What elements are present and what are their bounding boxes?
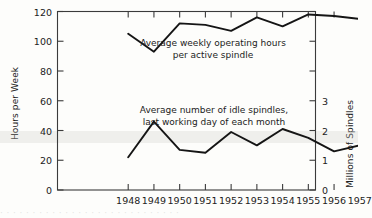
- x-tick-label: 1955: [296, 195, 320, 206]
- y2-tick-label: 3: [322, 95, 328, 106]
- annotation-lower-line2: last working day of each month: [143, 117, 285, 127]
- x-tick-label: 1953: [245, 195, 269, 206]
- x-tick-label: 1948: [116, 195, 140, 206]
- page-bleed-text: · · · · · · · · · · · · · · · · · · · · …: [0, 208, 358, 217]
- y-tick-label: 60: [20, 95, 52, 106]
- annotation-lower-series: Average number of idle spindles, last wo…: [128, 105, 300, 128]
- y-tick-label: 100: [20, 36, 52, 47]
- annotation-lower-line1: Average number of idle spindles,: [140, 105, 288, 115]
- y2-tick-label: 1: [322, 155, 328, 166]
- y-tick-label: 40: [20, 125, 52, 136]
- y-tick-label: 80: [20, 66, 52, 77]
- annotation-upper-series: Average weekly operating hours per activ…: [133, 38, 293, 61]
- x-tick-label: 1957: [348, 195, 372, 206]
- x-tick-label: 1954: [271, 195, 295, 206]
- x-tick-label: 1952: [219, 195, 243, 206]
- x-tick-label: 1951: [193, 195, 217, 206]
- x-tick-label: 1949: [142, 195, 166, 206]
- y-tick-label: 120: [20, 6, 52, 17]
- annotation-upper-line2: per active spindle: [173, 50, 253, 60]
- annotation-upper-line1: Average weekly operating hours: [140, 38, 286, 48]
- y-tick-label: 20: [20, 155, 52, 166]
- y2-tick-label: 0: [322, 185, 328, 196]
- y-tick-label: 0: [20, 185, 52, 196]
- x-tick-label: 1950: [168, 195, 192, 206]
- x-tick-label: 1956: [322, 195, 346, 206]
- y2-tick-label: 2: [322, 125, 328, 136]
